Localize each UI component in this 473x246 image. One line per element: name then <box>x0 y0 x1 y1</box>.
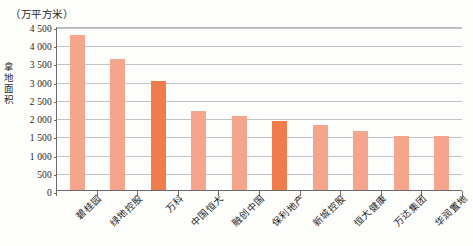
bar-碧桂园[interactable] <box>70 35 85 190</box>
x-tick-label: 华润置地 <box>433 193 469 229</box>
y-tick-label: 2 000 <box>30 115 52 125</box>
y-axis-title: 拿地面积 <box>2 62 16 106</box>
x-tick-label-text: 恒大健康 <box>352 193 388 229</box>
bar-中国恒大[interactable] <box>191 111 206 190</box>
x-tick-label-text: 保利地产 <box>271 193 307 229</box>
x-tick-label: 保利地产 <box>271 193 307 229</box>
y-axis-title-char: 拿 <box>2 62 16 73</box>
bar-slot <box>260 28 301 190</box>
x-tick-label: 恒大健康 <box>352 193 388 229</box>
bar-slot <box>219 28 260 190</box>
y-tick-label: 4 500 <box>30 24 52 34</box>
x-tick-label-text: 绿地控股 <box>109 193 145 229</box>
bar-slot <box>300 28 341 190</box>
y-tick-label: 3 500 <box>30 60 52 70</box>
x-tick-label-text: 融创中国 <box>230 193 266 229</box>
bar-slot <box>341 28 382 190</box>
y-tick-label: 0 <box>47 188 52 198</box>
x-tick-label: 碧桂园 <box>75 193 104 222</box>
bar-slot <box>179 28 220 190</box>
y-tick-label: 1 000 <box>30 152 52 162</box>
x-tick-label: 万达集团 <box>393 193 429 229</box>
y-tick-label: 500 <box>37 170 52 180</box>
plot-area: 05001 0001 5002 0002 5003 0003 5004 0004… <box>56 27 462 191</box>
bar-绿地控股[interactable] <box>110 59 125 190</box>
y-tick-label: 3 000 <box>30 79 52 89</box>
x-tick-label-text: 碧桂园 <box>75 193 104 222</box>
bar-slot <box>98 28 139 190</box>
y-axis-title-char: 积 <box>2 95 16 106</box>
x-tick-label: 万科 <box>163 193 185 215</box>
bar-融创中国[interactable] <box>232 116 247 190</box>
x-tick-label-text: 中国恒大 <box>190 193 226 229</box>
bar-华润置地[interactable] <box>434 136 449 190</box>
chart-figure: （万平方米） 拿地面积 05001 0001 5002 0002 5003 00… <box>0 0 473 246</box>
bar-万达集团[interactable] <box>394 136 409 190</box>
x-tick-label-text: 新城控股 <box>312 193 348 229</box>
x-tick-label: 新城控股 <box>312 193 348 229</box>
bar-slot <box>57 28 98 190</box>
bar-slot <box>138 28 179 190</box>
x-tick-label: 中国恒大 <box>190 193 226 229</box>
x-tick-label-text: 华润置地 <box>433 193 469 229</box>
bar-万科[interactable] <box>151 81 166 190</box>
x-tick-label-text: 万达集团 <box>393 193 429 229</box>
bar-slot <box>381 28 422 190</box>
bar-恒大健康[interactable] <box>353 131 368 190</box>
bar-新城控股[interactable] <box>313 125 328 190</box>
y-tick-label: 1 500 <box>30 133 52 143</box>
x-tick-label: 绿地控股 <box>109 193 145 229</box>
bar-slot <box>422 28 463 190</box>
x-axis-labels: 碧桂园绿地控股万科中国恒大融创中国保利地产新城控股恒大健康万达集团华润置地 <box>56 193 462 246</box>
y-axis-title-char: 面 <box>2 84 16 95</box>
y-axis-title-char: 地 <box>2 73 16 84</box>
bars-layer <box>57 28 462 190</box>
x-tick-label: 融创中国 <box>230 193 266 229</box>
unit-caption: （万平方米） <box>10 6 73 21</box>
bar-保利地产[interactable] <box>272 121 287 190</box>
y-tick-label: 4 000 <box>30 42 52 52</box>
x-tick-label-text: 万科 <box>163 193 185 215</box>
y-tick-label: 2 500 <box>30 97 52 107</box>
